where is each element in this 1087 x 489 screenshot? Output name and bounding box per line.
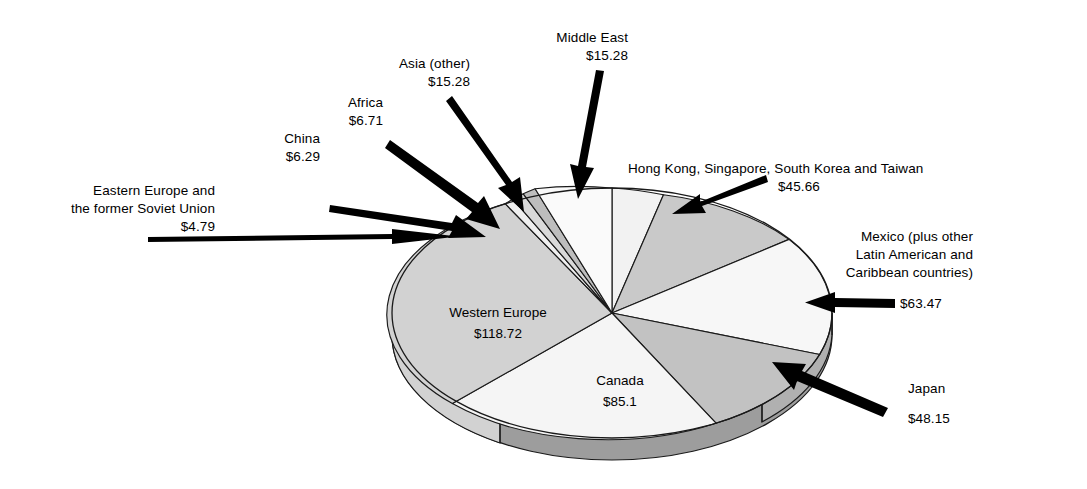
label-asia-other: Asia (other) $15.28 (340, 55, 470, 91)
label-eastern-europe-line1: Eastern Europe and (30, 182, 215, 200)
label-china-name: China (215, 130, 320, 148)
label-mexico-line3: Caribbean countries) (825, 264, 973, 282)
label-mexico-value: $63.47 (900, 295, 942, 313)
label-eastern-europe: Eastern Europe and the former Soviet Uni… (30, 182, 215, 235)
label-mexico-line1: Mexico (plus other (825, 228, 973, 246)
label-japan-value: $48.15 (908, 410, 1018, 428)
label-china: China $6.29 (215, 130, 320, 166)
label-eastern-europe-line2: the former Soviet Union (30, 200, 215, 218)
label-hong-kong: Hong Kong, Singapore, South Korea and Ta… (628, 160, 968, 196)
arrow-africa (385, 140, 500, 229)
label-eastern-europe-value: $4.79 (30, 218, 215, 236)
label-middle-east: Middle East $15.28 (480, 29, 628, 65)
label-hong-kong-name: Hong Kong, Singapore, South Korea and Ta… (628, 160, 968, 178)
label-western-europe: Western Europe $118.72 (418, 303, 578, 345)
label-canada: Canada $85.1 (565, 371, 675, 413)
label-mexico-value-wrap: $63.47 (900, 295, 942, 313)
label-africa: Africa $6.71 (270, 94, 383, 130)
label-middle-east-value: $15.28 (480, 47, 628, 65)
label-japan-name: Japan (908, 380, 1018, 398)
label-africa-value: $6.71 (270, 112, 383, 130)
label-western-europe-value: $118.72 (418, 324, 578, 345)
label-mexico-line2: Latin American and (825, 246, 973, 264)
label-china-value: $6.29 (215, 148, 320, 166)
label-mexico: Mexico (plus other Latin American and Ca… (825, 228, 973, 281)
label-middle-east-name: Middle East (480, 29, 628, 47)
label-canada-value: $85.1 (565, 392, 675, 413)
pie-chart-figure: Eastern Europe and the former Soviet Uni… (0, 0, 1087, 489)
label-western-europe-name: Western Europe (418, 303, 578, 324)
label-japan: Japan $48.15 (908, 380, 1018, 428)
label-canada-name: Canada (565, 371, 675, 392)
arrow-middle-east (570, 70, 604, 199)
label-hong-kong-value: $45.66 (778, 178, 968, 196)
label-africa-name: Africa (270, 94, 383, 112)
label-asia-other-value: $15.28 (340, 73, 470, 91)
label-asia-other-name: Asia (other) (340, 55, 470, 73)
